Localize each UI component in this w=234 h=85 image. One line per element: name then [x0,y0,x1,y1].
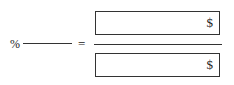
denominator-dollar-field[interactable]: $ [95,53,220,77]
denominator-input[interactable] [98,56,198,74]
percent-symbol: % [10,38,20,50]
numerator-dollar-field[interactable]: $ [95,11,220,35]
fraction-bar [94,44,222,45]
percent-answer-blank[interactable] [23,43,72,44]
numerator-input[interactable] [98,14,198,32]
equals-sign: = [78,37,85,50]
dollar-sign: $ [207,58,214,72]
dollar-sign: $ [207,16,214,30]
